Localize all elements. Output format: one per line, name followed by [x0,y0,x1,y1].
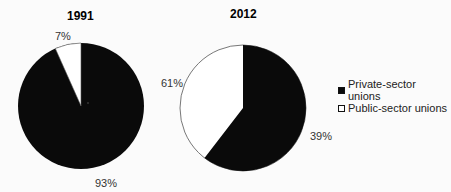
pie-title-2012: 2012 [230,7,257,21]
legend-item-public: Public-sector unions [338,99,451,117]
pie-title-1991: 1991 [67,9,94,23]
pie-1991 [18,43,144,169]
swatch-white-icon [338,105,345,112]
label-61pct: 61% [161,77,183,89]
pie-2012 [180,45,306,171]
label-39pct: 39% [310,130,332,142]
label-93pct: 93% [95,177,117,189]
swatch-black-icon [338,87,345,94]
legend-label: Public-sector unions [348,102,447,114]
label-7pct: 7% [55,30,71,42]
legend-item-private: Private-sector unions [338,81,451,99]
legend-label: Private-sector unions [348,78,451,102]
legend: Private-sector unions Public-sector unio… [338,81,451,117]
